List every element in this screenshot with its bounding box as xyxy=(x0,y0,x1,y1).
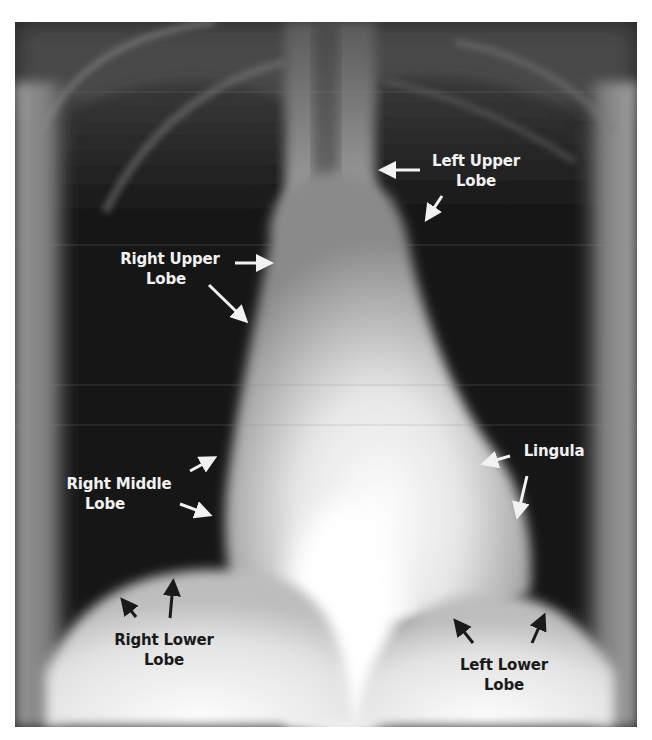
label-right-upper-lobe: Right Upper Lobe xyxy=(110,249,230,289)
label-line: Lingula xyxy=(514,441,594,461)
label-left-lower-lobe: Left Lower Lobe xyxy=(449,655,559,695)
label-line: Right Upper xyxy=(110,249,230,269)
label-right-middle-lobe: Right Middle Lobe xyxy=(55,474,183,514)
label-left-upper-lobe: Left Upper Lobe xyxy=(420,151,532,191)
chest-xray-image xyxy=(15,22,637,727)
label-line: Right Middle xyxy=(55,474,183,494)
label-line: Lobe xyxy=(27,494,183,514)
label-line: Lobe xyxy=(104,650,224,670)
label-lingula: Lingula xyxy=(514,441,594,461)
label-line: Lobe xyxy=(420,171,532,191)
label-line: Left Upper xyxy=(420,151,532,171)
label-line: Right Lower xyxy=(104,630,224,650)
label-right-lower-lobe: Right Lower Lobe xyxy=(104,630,224,670)
label-line: Lobe xyxy=(102,269,230,289)
xray-background xyxy=(15,22,637,727)
label-line: Left Lower xyxy=(449,655,559,675)
label-line: Lobe xyxy=(449,675,559,695)
